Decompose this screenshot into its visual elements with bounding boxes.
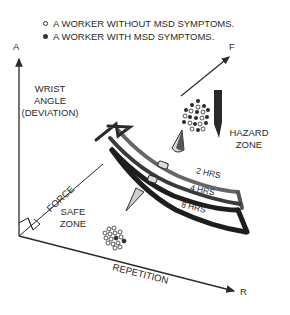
safe-zone-label: SAFE ZONE (56, 206, 90, 230)
axis-letter-f: F (229, 41, 235, 53)
safe-worker-cluster (103, 226, 126, 250)
hazard-worker-cluster (182, 99, 210, 132)
axis-letter-a: A (13, 41, 19, 53)
origin-corner-icon (19, 218, 40, 230)
hazard-arrow-icon (214, 90, 222, 138)
diagram-canvas (0, 0, 290, 315)
wrist-angle-label: WRIST ANGLE (DEVIATION) (20, 83, 80, 119)
hazard-zone-label: HAZARD ZONE (225, 127, 273, 151)
axis-letter-r: R (240, 286, 247, 298)
